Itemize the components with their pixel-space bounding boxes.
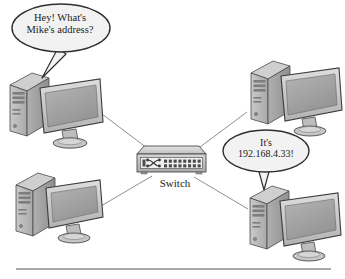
switch-status-led (143, 160, 146, 167)
tower-power-button[interactable] (19, 224, 22, 227)
monitor-base-top (63, 234, 85, 240)
tower-power-button[interactable] (13, 124, 16, 127)
connection-bottom-right (194, 177, 248, 209)
tower-power-button[interactable] (253, 237, 256, 240)
connection-top-left (102, 114, 147, 148)
switch-top-face (137, 146, 206, 154)
tower-power-button[interactable] (254, 112, 257, 115)
connection-bottom-left (101, 176, 152, 206)
computer-bottom-right[interactable] (250, 186, 341, 261)
monitor-base-top (298, 252, 320, 258)
monitor-base-top (299, 127, 321, 133)
speech-bubble-reply (223, 130, 309, 190)
network-diagram (0, 0, 345, 279)
speech-bubble-ask-body (12, 4, 110, 52)
computer-bottom-left[interactable] (16, 173, 103, 243)
monitor-base-top (58, 138, 82, 144)
speech-bubble-reply-body (223, 130, 309, 172)
computer-top-right[interactable] (251, 61, 342, 136)
computer-top-left[interactable] (10, 73, 103, 148)
diagram-canvas: Hey! What's Mike's address? It's 192.168… (0, 0, 345, 279)
network-switch[interactable] (137, 146, 206, 174)
speech-bubble-ask (12, 4, 110, 78)
